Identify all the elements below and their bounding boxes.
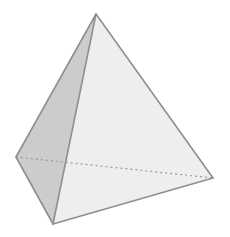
figure-canvas: Tetrahedron line drawing Shaded three-di…: [0, 0, 230, 237]
tetrahedron-drawing: Tetrahedron line drawing Shaded three-di…: [0, 0, 230, 237]
face-front-highlight: [53, 14, 213, 224]
